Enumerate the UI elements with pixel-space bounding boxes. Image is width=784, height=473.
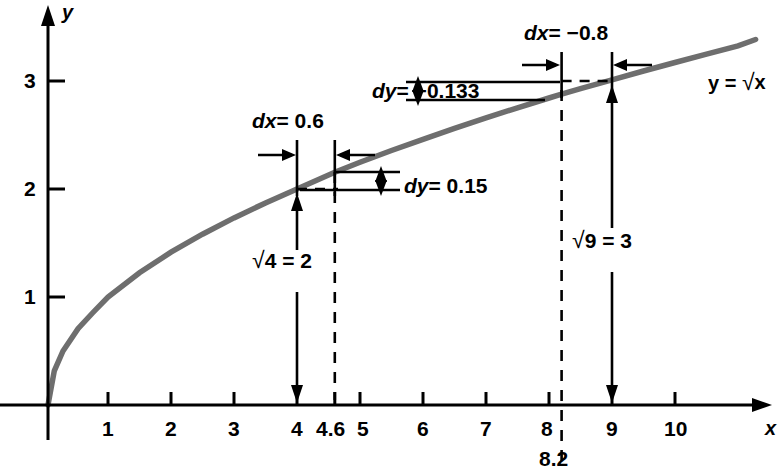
annotation-dx-left: dx= 0.6 bbox=[252, 110, 324, 131]
x-tick-label-8: 8 bbox=[541, 418, 553, 439]
measure-sqrt4 bbox=[291, 193, 303, 403]
x-tick-label-4: 4 bbox=[291, 418, 303, 439]
x-below-label-8-2: 8.2 bbox=[539, 448, 568, 469]
radical-glyph-4: √ bbox=[252, 250, 265, 272]
y-tick-label-1: 1 bbox=[24, 286, 36, 307]
arrow-down-sqrt9 bbox=[606, 385, 618, 403]
x-axis-ticks bbox=[108, 392, 675, 405]
x-axis-arrowhead bbox=[752, 398, 772, 412]
annotation-dx-left-eq: = 0.6 bbox=[277, 109, 324, 132]
arrow-dy-left-down bbox=[375, 180, 387, 196]
x-tick-label-5: 5 bbox=[357, 418, 369, 439]
sqrt-symbol-4: √4 bbox=[252, 250, 276, 272]
annotation-dx-right-eq: = −0.8 bbox=[549, 21, 609, 44]
annotation-dy-right: dy= −0.133 bbox=[372, 80, 479, 101]
annotation-sqrt4-radicand: 4 bbox=[265, 250, 277, 271]
annotation-dy-left-eq: = 0.15 bbox=[429, 174, 488, 197]
y-axis-ticks bbox=[48, 81, 65, 297]
x-tick-label-3: 3 bbox=[228, 418, 240, 439]
x-tick-label-2: 2 bbox=[165, 418, 177, 439]
y-axis-label: y bbox=[62, 2, 73, 22]
curve-equation-label: y = √x bbox=[708, 72, 766, 94]
x-tick-label-6: 6 bbox=[417, 418, 429, 439]
x-tick-label-10: 10 bbox=[664, 418, 687, 439]
x-axis-label: x bbox=[765, 418, 776, 438]
measure-dx-left bbox=[258, 140, 375, 196]
annotation-dx-right: dx= −0.8 bbox=[524, 22, 608, 43]
x-tick-label-1: 1 bbox=[102, 418, 114, 439]
annotation-sqrt4: √4 = 2 bbox=[252, 250, 312, 272]
sqrt-symbol-x: √x bbox=[742, 72, 766, 94]
radical-glyph-9: √ bbox=[572, 230, 585, 252]
radical-glyph-x: √ bbox=[742, 72, 755, 94]
curve-equation-lead: y = bbox=[708, 72, 736, 94]
annotation-dx-left-var: dx bbox=[252, 109, 277, 132]
x-tick-label-4-6: 4.6 bbox=[316, 418, 345, 439]
x-tick-label-7: 7 bbox=[480, 418, 492, 439]
annotation-dy-left-var: dy bbox=[404, 174, 429, 197]
y-axis-arrowhead bbox=[41, 5, 55, 26]
annotation-dy-left: dy= 0.15 bbox=[404, 175, 488, 196]
annotation-dy-right-eq: = −0.133 bbox=[397, 79, 480, 102]
arrow-down-sqrt4 bbox=[291, 385, 303, 403]
plot-canvas bbox=[0, 0, 784, 473]
arrow-dy-left-up bbox=[375, 166, 387, 182]
curve-equation-radicand: x bbox=[755, 72, 766, 92]
annotation-sqrt9: √9 = 3 bbox=[572, 230, 632, 252]
sqrt-symbol-9: √9 bbox=[572, 230, 596, 252]
annotation-dx-right-var: dx bbox=[524, 21, 549, 44]
square-root-differential-figure: y x 1 2 3 1 2 3 4 4.6 5 6 7 8 9 10 8.2 d… bbox=[0, 0, 784, 473]
y-tick-label-2: 2 bbox=[24, 178, 36, 199]
annotation-dy-right-var: dy bbox=[372, 79, 397, 102]
y-tick-label-3: 3 bbox=[24, 70, 36, 91]
annotation-sqrt9-eq: = 3 bbox=[602, 229, 632, 252]
annotation-sqrt9-radicand: 9 bbox=[585, 230, 597, 251]
annotation-sqrt4-eq: = 2 bbox=[282, 249, 312, 272]
x-tick-label-9: 9 bbox=[606, 418, 618, 439]
